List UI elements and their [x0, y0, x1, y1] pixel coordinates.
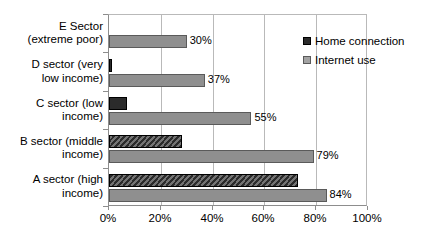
category-label-line: A sector (high	[0, 173, 103, 187]
bar-home-connection	[109, 135, 182, 148]
x-axis-tick-label: 60%	[251, 212, 274, 225]
x-axis-tick-label: 80%	[303, 212, 326, 225]
category-tick	[103, 91, 108, 92]
category-label-line: B sector (middle	[0, 135, 103, 149]
category-label-line: C sector (low	[0, 97, 103, 111]
category-tick	[103, 52, 108, 53]
bar-internet-use	[109, 189, 327, 202]
x-axis-tick-label: 20%	[148, 212, 171, 225]
legend-item-internet-use: Internet use	[303, 52, 405, 68]
category-label-line: income)	[0, 110, 103, 124]
legend-item-home-connection: Home connection	[303, 33, 405, 49]
bar-internet-use	[109, 150, 314, 163]
category-label-line: low income)	[0, 72, 103, 86]
legend-label-internet-use: Internet use	[315, 52, 376, 68]
legend-label-home-connection: Home connection	[315, 33, 405, 49]
bar-home-connection	[109, 174, 298, 187]
x-axis-tick	[212, 206, 213, 210]
category-tick	[103, 14, 108, 15]
category-label-line: income)	[0, 148, 103, 162]
x-axis-tick-label: 100%	[352, 212, 381, 225]
category-label-line: D sector (very	[0, 58, 103, 72]
bar-value-label: 37%	[208, 74, 230, 85]
horizontal-bar-chart: A sector (highincome)B sector (middleinc…	[0, 0, 424, 242]
bar-internet-use	[109, 74, 205, 87]
bar-value-label: 30%	[190, 35, 212, 46]
category-label-line: income)	[0, 187, 103, 201]
category-label: A sector (highincome)	[0, 173, 103, 200]
x-axis-tick	[263, 206, 264, 210]
category-label: D sector (verylow income)	[0, 58, 103, 85]
bar-value-label: 84%	[330, 189, 352, 200]
x-axis-tick	[367, 206, 368, 210]
bar-value-label: 79%	[317, 150, 339, 161]
bar-internet-use	[109, 35, 187, 48]
category-label: C sector (lowincome)	[0, 97, 103, 124]
x-axis-tick	[315, 206, 316, 210]
category-tick	[103, 129, 108, 130]
x-axis-tick-label: 40%	[200, 212, 223, 225]
legend-swatch-home-connection	[303, 37, 311, 45]
x-axis-tick-label: 0%	[100, 212, 117, 225]
category-tick	[103, 168, 108, 169]
x-axis-tick	[160, 206, 161, 210]
x-axis-tick	[108, 206, 109, 210]
category-label: E Sector(extreme poor)	[0, 20, 103, 47]
bar-home-connection	[109, 59, 112, 72]
category-label: B sector (middleincome)	[0, 135, 103, 162]
legend: Home connection Internet use	[303, 33, 405, 71]
legend-swatch-internet-use	[303, 56, 311, 64]
category-label-line: (extreme poor)	[0, 33, 103, 47]
bar-home-connection	[109, 97, 127, 110]
category-label-line: E Sector	[0, 20, 103, 34]
bar-value-label: 55%	[254, 112, 276, 123]
bar-internet-use	[109, 112, 251, 125]
